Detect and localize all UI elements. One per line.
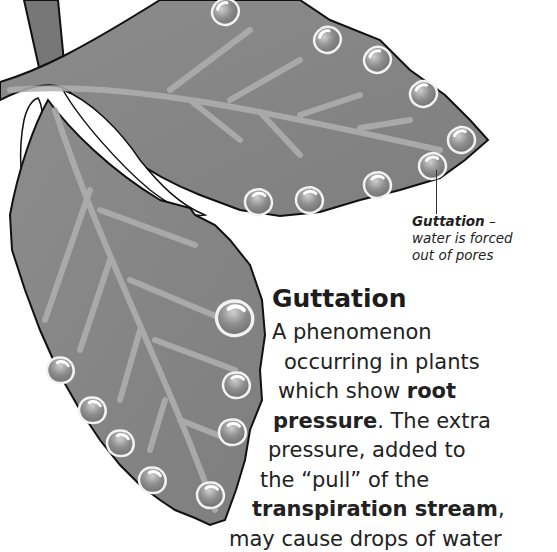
callout-dash: –	[485, 213, 496, 229]
callout-leader-line	[436, 170, 437, 214]
callout-desc-line1: water is forced	[412, 230, 513, 246]
body-line: A phenomenon	[200, 318, 557, 348]
body-line: pressure, added to	[200, 436, 557, 466]
article-heading: Guttation	[272, 284, 407, 313]
body-line: occurring in plants	[200, 348, 557, 378]
callout-desc-line2: out of pores	[412, 247, 493, 263]
article-body: A phenomenon occurring in plants which s…	[200, 318, 557, 552]
body-line: transpiration stream,	[200, 495, 557, 525]
body-line: which show root	[200, 377, 557, 407]
guttation-callout-label: Guttation – water is forced out of pores	[412, 213, 557, 264]
body-line: may cause drops of water	[200, 525, 557, 552]
body-line: the “pull” of the	[200, 466, 557, 496]
callout-term: Guttation	[412, 213, 485, 229]
body-line: pressure. The extra	[200, 407, 557, 437]
